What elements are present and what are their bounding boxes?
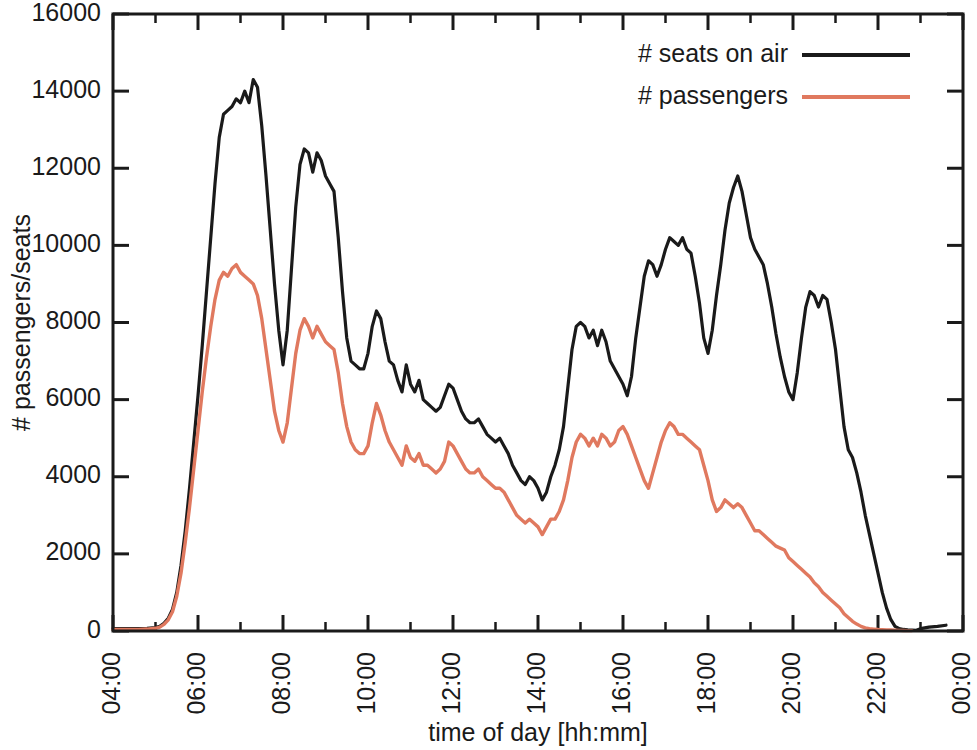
y-tick-label: 14000 (31, 75, 101, 103)
x-axis-tick-labels: 04:0006:0008:0010:0012:0014:0016:0018:00… (97, 652, 975, 715)
x-tick-label: 12:00 (437, 652, 465, 715)
x-axis-title: time of day [hh:mm] (428, 718, 648, 746)
chart-legend: # seats on air# passengers (638, 39, 910, 109)
legend-label: # passengers (638, 81, 788, 109)
x-tick-label: 04:00 (97, 652, 125, 715)
x-tick-label: 18:00 (692, 652, 720, 715)
y-tick-label: 12000 (31, 152, 101, 180)
series-line (113, 80, 946, 631)
x-axis-minor-ticks (156, 14, 921, 631)
x-tick-label: 06:00 (182, 652, 210, 715)
y-axis-tick-labels: 0200040006000800010000120001400016000 (31, 0, 101, 643)
y-tick-label: 6000 (45, 383, 101, 411)
plot-frame (113, 14, 963, 631)
x-tick-label: 20:00 (777, 652, 805, 715)
series-line (113, 265, 912, 631)
x-tick-label: 14:00 (522, 652, 550, 715)
x-tick-label: 10:00 (352, 652, 380, 715)
x-tick-label: 22:00 (862, 652, 890, 715)
x-axis-major-ticks (113, 14, 963, 631)
y-axis-title: # passengers/seats (7, 214, 35, 431)
y-tick-label: 0 (87, 615, 101, 643)
y-tick-label: 10000 (31, 229, 101, 257)
y-tick-label: 4000 (45, 460, 101, 488)
legend-label: # seats on air (638, 39, 788, 67)
y-tick-label: 2000 (45, 537, 101, 565)
y-tick-label: 8000 (45, 306, 101, 334)
x-tick-label: 00:00 (947, 652, 975, 715)
y-axis-ticks (113, 14, 963, 631)
y-tick-label: 16000 (31, 0, 101, 26)
data-series-group (113, 80, 946, 631)
chart-figure: 0200040006000800010000120001400016000 04… (0, 0, 977, 750)
x-tick-label: 16:00 (607, 652, 635, 715)
line-chart: 0200040006000800010000120001400016000 04… (0, 0, 977, 750)
x-tick-label: 08:00 (267, 652, 295, 715)
